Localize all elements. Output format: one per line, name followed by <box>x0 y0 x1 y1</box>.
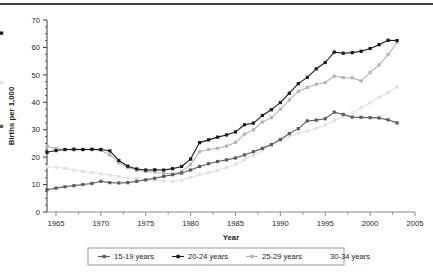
data-point-marker <box>279 101 282 104</box>
legend-marker-1 <box>102 255 105 258</box>
data-point-marker <box>198 150 201 153</box>
data-point-marker <box>99 148 102 151</box>
data-point-marker <box>207 138 210 141</box>
data-point-marker <box>54 166 57 169</box>
data-point-marker <box>216 136 219 139</box>
data-point-marker <box>207 171 210 174</box>
data-point-marker <box>315 126 318 129</box>
data-point-marker <box>243 153 246 156</box>
data-point-marker <box>315 119 318 122</box>
data-point-marker <box>386 91 389 94</box>
data-point-marker <box>252 154 255 157</box>
legend-label-2[interactable]: 20-24 years <box>188 252 228 261</box>
y-tick-label: 70 <box>32 16 40 25</box>
data-point-marker <box>117 181 120 184</box>
legend-label-3[interactable]: 25-29 years <box>262 252 302 261</box>
data-point-marker <box>198 141 201 144</box>
data-point-marker <box>153 168 156 171</box>
figure-container: 010203040506070 196519701975198019851990… <box>0 0 433 275</box>
data-point-marker <box>279 138 282 141</box>
data-point-marker <box>216 160 219 163</box>
line-chart: 010203040506070 196519701975198019851990… <box>0 0 433 275</box>
data-point-marker <box>360 116 363 119</box>
data-point-marker <box>72 148 75 151</box>
data-point-marker <box>180 171 183 174</box>
data-point-marker <box>108 181 111 184</box>
data-point-marker <box>162 179 165 182</box>
data-point-marker <box>234 141 237 144</box>
data-point-marker <box>108 149 111 152</box>
data-point-marker <box>207 148 210 151</box>
data-point-marker <box>324 81 327 84</box>
data-point-marker <box>81 148 84 151</box>
data-point-marker <box>144 168 147 171</box>
data-point-marker <box>72 184 75 187</box>
data-point-marker <box>54 149 57 152</box>
data-point-marker <box>234 156 237 159</box>
data-point-marker <box>315 67 318 70</box>
data-point-marker <box>90 171 93 174</box>
data-point-marker <box>351 51 354 54</box>
y-tick-label: 0 <box>36 208 40 217</box>
data-point-marker <box>306 76 309 79</box>
data-point-marker <box>297 82 300 85</box>
data-point-marker <box>171 173 174 176</box>
data-point-marker <box>126 165 129 168</box>
data-point-marker <box>108 173 111 176</box>
data-point-marker <box>270 108 273 111</box>
data-point-marker <box>342 113 345 116</box>
legend-label-1[interactable]: 15-19 years <box>114 252 154 261</box>
data-point-marker <box>45 145 48 148</box>
data-point-marker <box>180 179 183 182</box>
legend-marker-3 <box>250 255 253 258</box>
series-line <box>47 42 397 174</box>
data-point-marker <box>198 165 201 168</box>
data-point-marker <box>45 165 48 168</box>
data-point-marker <box>135 180 138 183</box>
data-point-marker <box>198 173 201 176</box>
data-point-marker <box>90 148 93 151</box>
data-point-marker <box>117 159 120 162</box>
data-point-marker <box>234 163 237 166</box>
data-point-marker <box>189 157 192 160</box>
data-point-marker <box>369 116 372 119</box>
data-point-marker <box>261 114 264 117</box>
data-point-marker <box>288 132 291 135</box>
data-point-marker <box>99 172 102 175</box>
data-point-marker <box>288 92 291 95</box>
y-axis-title: Births per 1,000 <box>7 86 16 145</box>
data-point-marker <box>279 108 282 111</box>
data-point-marker <box>324 123 327 126</box>
data-point-marker <box>0 32 3 35</box>
data-point-marker <box>63 167 66 170</box>
data-point-marker <box>261 147 264 150</box>
y-tick-label: 40 <box>32 98 40 107</box>
data-point-marker <box>378 43 381 46</box>
data-point-marker <box>243 158 246 161</box>
data-point-marker <box>315 83 318 86</box>
data-point-marker <box>225 145 228 148</box>
data-point-marker <box>378 63 381 66</box>
data-point-marker <box>342 116 345 119</box>
data-point-marker <box>117 175 120 178</box>
data-point-marker <box>333 119 336 122</box>
data-point-marker <box>63 185 66 188</box>
data-point-marker <box>297 127 300 130</box>
data-point-marker <box>126 176 129 179</box>
x-tick-label: 1985 <box>227 219 244 228</box>
data-point-marker <box>378 96 381 99</box>
legend-label-4[interactable]: 30-34 years <box>330 252 370 261</box>
data-point-marker <box>81 170 84 173</box>
chart-series-layer <box>0 31 399 191</box>
data-point-marker <box>288 98 291 101</box>
x-axis-title: Year <box>223 233 239 242</box>
data-point-marker <box>225 133 228 136</box>
data-point-marker <box>99 180 102 183</box>
x-tick-label: 1970 <box>92 219 109 228</box>
y-tick-label: 30 <box>32 125 40 134</box>
data-point-marker <box>126 181 129 184</box>
data-point-marker <box>324 117 327 120</box>
data-point-marker <box>369 71 372 74</box>
data-point-marker <box>207 162 210 165</box>
data-point-marker <box>333 75 336 78</box>
